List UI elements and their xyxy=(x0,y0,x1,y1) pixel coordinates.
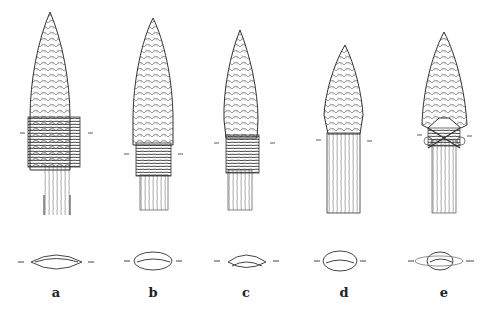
label-d: d xyxy=(334,285,354,300)
label-a: a xyxy=(46,285,66,300)
point-c xyxy=(214,30,275,210)
label-e: e xyxy=(434,285,454,300)
illustration xyxy=(0,0,494,313)
label-c: c xyxy=(236,285,256,300)
point-b xyxy=(124,18,183,210)
hafted-points-figure: a b c d e xyxy=(0,0,494,313)
point-a xyxy=(20,12,93,215)
label-b: b xyxy=(143,285,163,300)
point-d xyxy=(316,45,372,213)
cross-sections xyxy=(18,251,474,271)
point-e xyxy=(417,32,472,213)
